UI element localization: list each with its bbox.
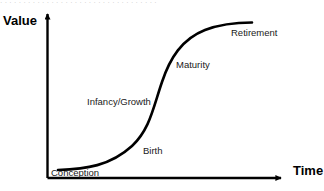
annotation-infancy-growth: Infancy/Growth <box>87 96 151 107</box>
y-axis-title: Value <box>3 13 37 28</box>
x-axis-title: Time <box>293 163 323 178</box>
annotation-maturity: Maturity <box>176 59 210 70</box>
lifecycle-s-curve-figure: · · · · · · · · · · · · · · · · · · · · … <box>0 0 324 191</box>
annotation-birth: Birth <box>143 145 163 156</box>
annotation-conception: Conception <box>51 167 99 178</box>
annotation-retirement: Retirement <box>231 27 277 38</box>
